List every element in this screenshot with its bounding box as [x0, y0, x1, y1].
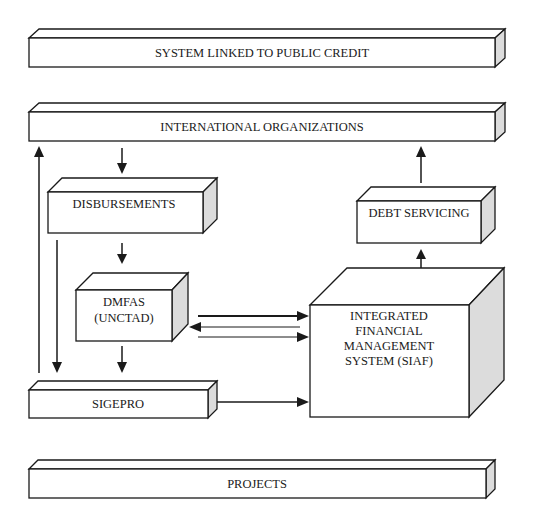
arrow-right-icon	[297, 397, 309, 407]
box-dmfas: DMFAS (UNCTAD)	[76, 273, 188, 341]
box-public-credit: SYSTEM LINKED TO PUBLIC CREDIT	[29, 29, 505, 67]
box-siaf-label-line1: INTEGRATED	[350, 309, 428, 323]
arrow-dmfas-to-sigepro	[117, 346, 127, 373]
arrow-dmfas-to-siaf	[198, 311, 309, 321]
box-disbursements-label: DISBURSEMENTS	[73, 197, 176, 211]
arrow-right-icon	[297, 332, 309, 342]
arrow-disbursements-to-sigepro	[52, 240, 62, 373]
arrow-left-icon	[189, 322, 201, 332]
box-disbursements: DISBURSEMENTS	[48, 178, 217, 233]
arrow-sigepro-to-siaf	[217, 397, 309, 407]
box-debt-servicing: DEBT SERVICING	[357, 187, 495, 243]
box-international-organizations: INTERNATIONAL ORGANIZATIONS	[29, 103, 505, 141]
arrow-down-icon	[117, 163, 127, 174]
arrow-down-icon	[117, 362, 127, 373]
box-sigepro: SIGEPRO	[29, 381, 217, 418]
box-dmfas-label-line2: (UNCTAD)	[94, 311, 153, 325]
arrow-dmfas-to-siaf-secondary	[198, 332, 309, 342]
arrow-debt-servicing-to-intl	[416, 146, 426, 183]
arrow-disbursements-to-dmfas	[117, 243, 127, 264]
arrow-siaf-to-dmfas	[189, 322, 300, 332]
box-sigepro-label: SIGEPRO	[92, 397, 144, 411]
box-international-organizations-label: INTERNATIONAL ORGANIZATIONS	[160, 120, 363, 134]
box-siaf: INTEGRATED FINANCIAL MANAGEMENT SYSTEM (…	[310, 268, 504, 417]
box-dmfas-label-line1: DMFAS	[103, 295, 145, 309]
arrow-down-icon	[117, 254, 127, 264]
box-projects: PROJECTS	[29, 460, 495, 498]
arrow-sigepro-to-intl	[34, 146, 44, 373]
box-siaf-label-line4: SYSTEM (SIAF)	[345, 354, 433, 368]
box-projects-label: PROJECTS	[227, 477, 287, 491]
box-public-credit-label: SYSTEM LINKED TO PUBLIC CREDIT	[155, 46, 369, 60]
arrow-up-icon	[416, 146, 426, 157]
arrow-down-icon	[52, 362, 62, 373]
arrow-right-icon	[297, 311, 309, 321]
arrow-up-icon	[34, 146, 44, 157]
arrow-up-icon	[416, 249, 426, 259]
arrow-siaf-to-debt-servicing	[416, 249, 426, 268]
box-siaf-label-line2: FINANCIAL	[355, 324, 422, 338]
box-debt-servicing-label: DEBT SERVICING	[368, 206, 469, 220]
arrow-intl-to-disbursements	[117, 148, 127, 174]
box-siaf-label-line3: MANAGEMENT	[344, 339, 435, 353]
flow-diagram: SYSTEM LINKED TO PUBLIC CREDIT INTERNATI…	[0, 0, 533, 527]
